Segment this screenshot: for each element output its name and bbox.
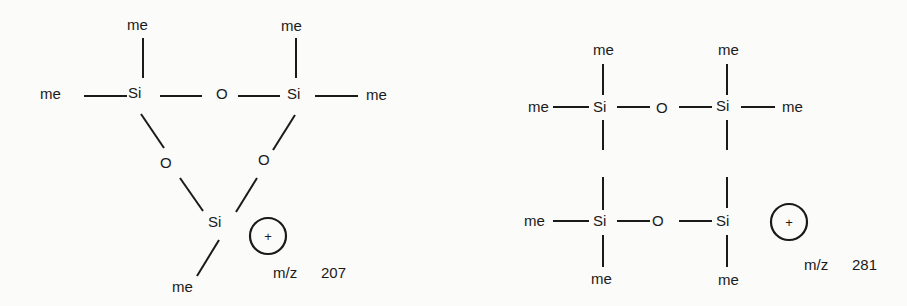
silicon-atom: Si [128, 84, 141, 101]
silicon-atom: Si [208, 213, 221, 230]
oxygen-atom: O [216, 85, 228, 102]
bond [236, 178, 257, 212]
oxygen-atom: O [652, 212, 664, 229]
silicon-atom: Si [716, 97, 729, 114]
methyl-label: me [127, 16, 148, 33]
silicon-atom: Si [593, 212, 606, 229]
mz-label: m/z [273, 264, 297, 281]
charge-sign: + [785, 215, 793, 230]
methyl-label: me [524, 212, 545, 229]
charge-sign: + [264, 229, 272, 244]
methyl-label: me [593, 41, 614, 58]
silicon-atom: Si [287, 85, 300, 102]
mz-value: 281 [852, 256, 877, 273]
mz-value: 207 [321, 264, 346, 281]
bond [141, 114, 164, 148]
bond [180, 178, 203, 211]
methyl-label: me [591, 270, 612, 287]
methyl-label: me [366, 86, 387, 103]
methyl-label: me [40, 85, 61, 102]
structure-281: me me me Si O Si me me Si O Si me me + m… [524, 41, 877, 288]
oxygen-atom: O [160, 154, 172, 171]
methyl-label: me [718, 271, 739, 288]
methyl-label: me [281, 17, 302, 34]
mz-label: m/z [804, 256, 828, 273]
methyl-label: me [172, 278, 193, 295]
bond [273, 115, 295, 150]
methyl-label: me [528, 98, 549, 115]
bond [197, 240, 219, 276]
diagram-canvas: me me Si O Si me me O O Si me + m/z 207 … [0, 0, 907, 306]
oxygen-atom: O [656, 99, 668, 116]
oxygen-atom: O [258, 151, 270, 168]
silicon-atom: Si [716, 212, 729, 229]
silicon-atom: Si [593, 98, 606, 115]
structure-207: me me Si O Si me me O O Si me + m/z 207 [40, 16, 387, 295]
methyl-label: me [782, 98, 803, 115]
methyl-label: me [718, 41, 739, 58]
